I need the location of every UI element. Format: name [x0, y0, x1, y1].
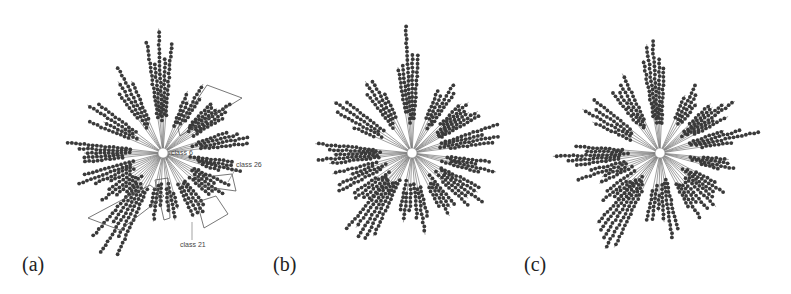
- tree-nodes: [317, 25, 500, 240]
- panel-c: (c): [498, 0, 762, 294]
- panel-label-a: (a): [22, 253, 44, 276]
- tree-root: [158, 148, 168, 158]
- tree-nodes: [555, 39, 760, 248]
- panel-label-c: (c): [524, 253, 546, 276]
- radial-tree-b: [249, 0, 513, 294]
- tree-root: [655, 148, 665, 158]
- radial-tree-c: [498, 0, 762, 294]
- tree-root: [407, 148, 417, 158]
- panel-a: class 6class 26class 21 (a): [0, 0, 264, 294]
- panel-b: (b): [249, 0, 513, 294]
- radial-tree-a: class 6class 26class 21: [0, 0, 264, 294]
- annotation-class-21: class 21: [180, 241, 206, 248]
- panel-label-b: (b): [273, 253, 296, 276]
- annotation-class-6: class 6: [171, 149, 193, 156]
